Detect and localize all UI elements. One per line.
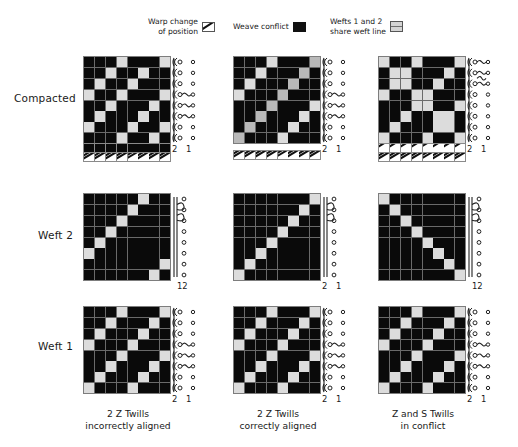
weave-cell [234, 194, 244, 204]
weave-grid-weft1-correct[interactable] [233, 306, 321, 394]
weave-cell [433, 351, 443, 361]
weave-cell [117, 318, 127, 328]
weave-cell [278, 122, 288, 132]
weave-cell [455, 57, 465, 67]
weave-cell [245, 329, 255, 339]
weave-cell [455, 101, 465, 111]
weave-cell [117, 329, 127, 339]
weave-cell [278, 259, 288, 269]
weave-cell [288, 111, 298, 121]
weave-cell [128, 270, 138, 280]
weave-cell [245, 79, 255, 89]
weave-cell [412, 307, 422, 317]
weave-cell [84, 227, 94, 237]
weave-cell [379, 351, 389, 361]
weave-cell [95, 90, 105, 100]
weave-cell [128, 318, 138, 328]
weave-cell [128, 57, 138, 67]
weave-cell [256, 351, 266, 361]
weave-cell [423, 101, 433, 111]
weave-cell [84, 90, 94, 100]
weave-cell [412, 101, 422, 111]
weave-cell [84, 79, 94, 89]
threading-draft-compacted-conflict[interactable] [466, 56, 496, 144]
warp-change-cell [128, 153, 138, 161]
weave-grid-weft2-conflict[interactable] [378, 193, 466, 281]
weave-cell [128, 259, 138, 269]
weave-cell [267, 361, 277, 371]
weave-cell [278, 248, 288, 258]
weave-cell [234, 307, 244, 317]
weave-grid [378, 306, 466, 394]
weave-cell [160, 79, 170, 89]
weave-cell [310, 351, 320, 361]
weave-cell [288, 227, 298, 237]
weave-cell [444, 340, 454, 350]
weave-cell [390, 318, 400, 328]
weave-cell [245, 68, 255, 78]
weave-cell [267, 307, 277, 317]
threading-draft-compacted-incorrect[interactable] [171, 56, 201, 144]
weave-cell [401, 307, 411, 317]
weave-grid-compacted-incorrect[interactable] [83, 56, 171, 144]
weave-grid-weft2-incorrect[interactable] [83, 193, 171, 281]
weave-cell [138, 270, 148, 280]
weave-cell [138, 259, 148, 269]
threading-draft-compacted-correct[interactable] [321, 56, 351, 144]
weave-cell [433, 372, 443, 382]
weave-cell [149, 248, 159, 258]
warp-change-cell [149, 153, 159, 161]
weave-cell [95, 238, 105, 248]
weave-cell [299, 259, 309, 269]
weave-cell [444, 351, 454, 361]
weave-cell [455, 90, 465, 100]
weave-cell [412, 372, 422, 382]
weave-cell [412, 270, 422, 280]
weave-cell [138, 318, 148, 328]
weave-cell [149, 340, 159, 350]
threading-draft-weft2-conflict[interactable] [466, 193, 496, 281]
row-label-weft-1: Weft 1 [38, 340, 73, 352]
draft-svg [466, 193, 496, 281]
weave-cell [444, 216, 454, 226]
weave-grid-compacted-correct[interactable] [233, 56, 321, 144]
weave-cell [401, 205, 411, 215]
weave-cell [128, 361, 138, 371]
weave-cell [299, 216, 309, 226]
threading-draft-weft1-correct[interactable] [321, 306, 351, 394]
weave-cell [128, 90, 138, 100]
weave-cell [379, 238, 389, 248]
weave-cell [149, 238, 159, 248]
weave-cell [245, 307, 255, 317]
threading-draft-weft2-incorrect[interactable] [171, 193, 201, 281]
weave-grid-weft2-correct[interactable] [233, 193, 321, 281]
weave-cell [245, 248, 255, 258]
weave-cell [138, 57, 148, 67]
weave-cell [423, 133, 433, 143]
legend-label-warp-change: Warp change of position [148, 17, 198, 36]
threading-draft-weft1-conflict[interactable] [466, 306, 496, 394]
weave-cell [412, 122, 422, 132]
weave-cell [95, 307, 105, 317]
weave-grid-compacted-conflict[interactable] [378, 56, 466, 144]
weave-cell [455, 351, 465, 361]
weave-cell [117, 227, 127, 237]
weave-cell [267, 111, 277, 121]
threading-draft-weft1-incorrect[interactable] [171, 306, 201, 394]
weave-cell [234, 372, 244, 382]
weave-cell [412, 329, 422, 339]
weave-grid-weft1-conflict[interactable] [378, 306, 466, 394]
weave-cell [117, 351, 127, 361]
row-label-compacted: Compacted [14, 92, 76, 104]
threading-draft-weft2-correct[interactable] [321, 193, 351, 281]
draft-svg [321, 56, 351, 144]
weave-cell [390, 90, 400, 100]
weave-cell [433, 307, 443, 317]
weave-cell [160, 111, 170, 121]
weave-grid-weft1-incorrect[interactable] [83, 306, 171, 394]
warp-change-cell [160, 153, 170, 161]
weave-cell [401, 68, 411, 78]
draft-svg [321, 193, 351, 281]
weave-cell [310, 248, 320, 258]
weave-cell [106, 194, 116, 204]
